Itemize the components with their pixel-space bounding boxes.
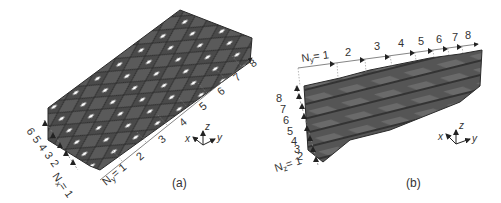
svg-text:5: 5 [418,35,424,47]
svg-text:2: 2 [345,46,351,58]
axis-triad-b [446,130,470,144]
svg-text:8: 8 [247,56,259,69]
axis-z-label-b: z [458,120,464,131]
caption-a: (a) [172,176,187,190]
svg-text:3: 3 [156,132,168,145]
svg-text:5: 5 [287,125,293,137]
svg-text:5: 5 [197,99,209,112]
svg-text:Ny= 1: Ny= 1 [301,48,330,66]
axis-x-label-b: x [437,131,444,142]
svg-text:2: 2 [48,157,61,169]
lattice-surface-b [304,50,482,162]
svg-text:2: 2 [134,149,146,162]
axis-y-label-b: y [471,133,478,144]
svg-text:8: 8 [465,29,471,41]
svg-text:6: 6 [436,33,442,45]
svg-text:7: 7 [231,70,243,83]
svg-text:6: 6 [283,114,289,126]
svg-text:8: 8 [276,92,282,104]
nz-labels: Nz= 1 2 3 4 5 6 7 8 [273,92,304,176]
axis-x-label: x [184,133,191,144]
panel-b: Ny= 1 2 3 4 5 6 7 8 Nz= 1 2 3 4 5 6 7 8 … [273,29,482,190]
axis-triad-a [193,131,215,145]
panel-a: Nx= 1 2 3 4 5 6 Ny= 1 2 3 4 5 6 7 8 z x … [24,10,259,201]
axis-y-label: y [216,132,223,143]
axis-z-label: z [204,121,210,132]
svg-text:4: 4 [177,115,189,128]
svg-text:7: 7 [280,103,286,115]
svg-text:4: 4 [398,37,404,49]
svg-text:7: 7 [452,31,458,43]
svg-text:Nx= 1: Nx= 1 [49,170,76,201]
caption-b: (b) [406,176,421,190]
svg-text:6: 6 [215,84,227,97]
figure-canvas: Nx= 1 2 3 4 5 6 Ny= 1 2 3 4 5 6 7 8 z x … [0,0,501,203]
svg-text:3: 3 [374,40,380,52]
